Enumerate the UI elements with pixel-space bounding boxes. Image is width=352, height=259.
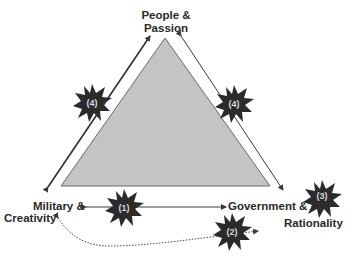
marker-label: (3) <box>317 191 328 201</box>
marker-label: (2) <box>227 227 238 237</box>
vertex-label-right-line1: Government & <box>228 200 307 213</box>
vertex-top-line2: Passion <box>138 22 194 35</box>
marker-label: (4) <box>229 99 240 109</box>
vertex-label-left-line2: Creativity <box>4 212 56 225</box>
vertex-top-line1: People & <box>138 9 194 22</box>
starburst-marker-1: (1) <box>105 189 144 227</box>
marker-label: (4) <box>87 98 98 108</box>
marker-label: (1) <box>119 203 130 213</box>
starburst-marker-4-left: (4) <box>73 84 112 122</box>
vertex-label-right-line2: Rationality <box>284 217 343 230</box>
vertex-label-top: People & Passion <box>138 9 194 35</box>
starburst-marker-3: (3) <box>303 180 342 218</box>
